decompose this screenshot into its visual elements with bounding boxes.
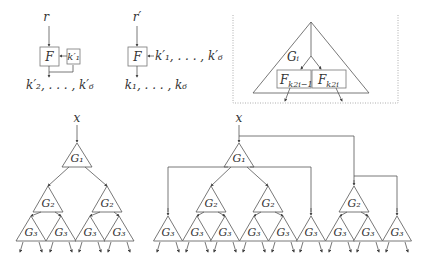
arrow-g2-to-g3 — [31, 212, 41, 216]
tree-right: xG₁G₂G₂G₂G₃G₃G₃G₃G₃G₃G₃G₃G₃ — [154, 111, 412, 252]
diagram-canvas: r F k′₁ k′₂, . . . , k′₆ r′ F k′₁, . . .… — [0, 0, 433, 261]
g1-triangle-label: G₁ — [232, 152, 245, 165]
leaf-arrow — [386, 242, 389, 252]
leaf-arrow — [69, 242, 72, 252]
leaf-arrow — [319, 242, 322, 252]
leaf-arrow — [376, 242, 379, 252]
panel-a: r F k′₁ k′₂, . . . , k′₆ — [26, 10, 94, 92]
g3-triangle-label: G₃ — [218, 226, 231, 239]
f-label-b: F — [132, 50, 142, 64]
leaf-arrow — [405, 242, 408, 252]
leaf-arrow — [233, 242, 236, 252]
leaf-arrow — [329, 242, 332, 252]
leaf-arrow — [214, 242, 217, 252]
leaf-arrow — [50, 242, 53, 252]
leaf-arrow — [20, 242, 23, 252]
input-x-label: x — [236, 111, 243, 125]
arrow-g1-to-g2 — [211, 167, 231, 186]
arrow-g1-to-g2 — [85, 167, 107, 186]
leaf-arrow — [157, 242, 160, 252]
arrow-g2-to-g3 — [361, 212, 368, 216]
leaf-arrow — [348, 242, 351, 252]
output-label-b: k₁, . . . , k₆ — [125, 78, 187, 92]
arrow-g2-to-g3 — [55, 212, 61, 216]
arrow-g2-to-g3 — [114, 212, 119, 216]
leaf-arrow — [300, 242, 303, 252]
arrow-g1-to-g2 — [48, 167, 69, 186]
input-r-prime-label: r′ — [133, 10, 142, 24]
skip-line-to-g2-right — [239, 136, 354, 184]
arrow-g2-to-g3 — [197, 212, 204, 216]
leaf-arrow — [39, 242, 42, 252]
g1-triangle-label: G₁ — [70, 152, 83, 165]
arrow-g2-to-g3 — [90, 212, 100, 216]
g3-triangle-label: G₃ — [161, 226, 174, 239]
g3-triangle-label: G₃ — [112, 226, 125, 239]
leaf-arrow — [186, 242, 189, 252]
g2-triangle-label: G₂ — [100, 197, 113, 210]
g2-triangle-label: G₂ — [261, 197, 274, 210]
panel-b: r′ F k′₁, . . . , k′₆ k₁, . . . , k₆ — [125, 10, 223, 92]
leaf-arrow — [357, 242, 360, 252]
input-x-label: x — [74, 111, 81, 125]
output-label: k′₂, . . . , k′₆ — [26, 78, 94, 92]
arrow-g2-to-g3 — [340, 212, 347, 216]
g3-triangle-label: G₃ — [276, 226, 289, 239]
leaf-arrow — [127, 242, 130, 252]
g3-triangle-label: G₃ — [190, 226, 203, 239]
key-box-label: k′₁ — [67, 51, 79, 62]
leaf-arrow — [262, 242, 265, 252]
leaf-arrow — [291, 242, 294, 252]
g3-triangle-label: G₃ — [390, 226, 403, 239]
g3-triangle-label: G₃ — [54, 226, 67, 239]
g3-triangle-label: G₃ — [247, 226, 260, 239]
leaf-arrow — [243, 242, 246, 252]
arrow-g2-to-g3 — [218, 212, 225, 216]
leaf-arrow — [79, 242, 82, 252]
g2-triangle-label: G₂ — [41, 197, 54, 210]
g3-triangle-label: G₃ — [361, 226, 374, 239]
g2-triangle-label: G₂ — [204, 197, 217, 210]
arrow-g2-to-g3 — [254, 212, 261, 216]
arrow-g1-to-g2 — [247, 167, 268, 186]
leaf-arrow — [176, 242, 179, 252]
panel-c: Gᵢ Fk2i−1 Fk2i — [233, 15, 398, 103]
g2-triangle-label: G₂ — [347, 197, 360, 210]
gi-label: Gᵢ — [287, 50, 300, 64]
keys-label: k′₁, . . . , k′₆ — [155, 49, 223, 63]
arrow-g2-to-g3 — [275, 212, 283, 216]
g3-triangle-label: G₃ — [24, 226, 37, 239]
g3-triangle-label: G₃ — [333, 226, 346, 239]
input-r-label: r — [43, 10, 50, 24]
g3-triangle-label: G₃ — [304, 226, 317, 239]
f-label: F — [44, 50, 54, 64]
tree-left: xG₁G₂G₂G₃G₃G₃G₃ — [16, 111, 134, 252]
g3-triangle-label: G₃ — [83, 226, 96, 239]
leaf-arrow — [108, 242, 111, 252]
leaf-arrow — [98, 242, 101, 252]
leaf-arrow — [205, 242, 208, 252]
leaf-arrow — [272, 242, 275, 252]
